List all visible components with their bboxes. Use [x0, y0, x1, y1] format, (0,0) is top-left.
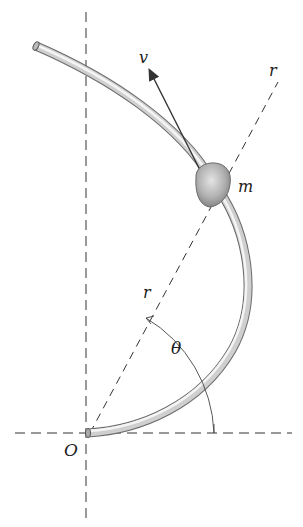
velocity-arrow [151, 73, 205, 180]
radial-axis-label: r [269, 61, 278, 80]
velocity-label: v [139, 48, 148, 67]
mass-label: m [238, 177, 253, 196]
angle-label: θ [171, 338, 181, 358]
origin-label: O [64, 440, 78, 460]
diagram-canvas: v r m r θ O [0, 0, 303, 527]
curved-rod [32, 41, 248, 438]
radial-distance-label: r [143, 283, 152, 302]
rod-end-origin [86, 429, 91, 438]
